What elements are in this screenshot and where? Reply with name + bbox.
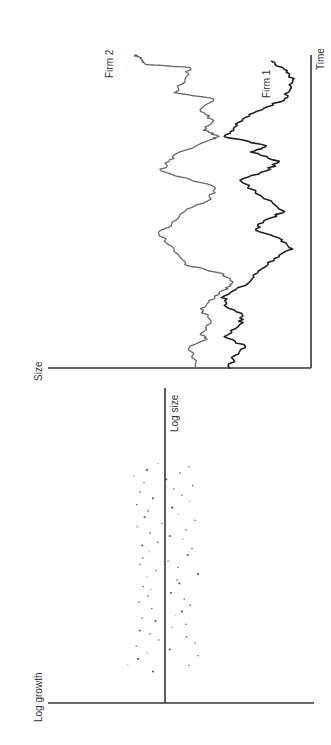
- firm-1-line: [221, 61, 294, 368]
- size-axis-label: Size: [33, 361, 44, 381]
- scatter-point: [188, 664, 190, 666]
- time-series-panel: Time Size Firm 2 Firm 1: [33, 48, 326, 381]
- figure: Time Size Firm 2 Firm 1 Log size Log gro…: [0, 0, 331, 745]
- scatter-point: [144, 516, 146, 518]
- scatter-point: [188, 466, 190, 468]
- scatter-point: [141, 617, 143, 619]
- scatter-point: [146, 576, 148, 578]
- scatter-point: [170, 592, 172, 594]
- scatter-point: [143, 586, 145, 588]
- scatter-point: [185, 624, 187, 626]
- time-axis-label: Time: [315, 48, 326, 70]
- scatter-point: [187, 554, 189, 556]
- scatter-point: [141, 544, 143, 546]
- scatter-point: [139, 629, 141, 631]
- scatter-point: [150, 589, 152, 591]
- scatter-point: [183, 598, 185, 600]
- scatter-point: [179, 472, 181, 474]
- scatter-point: [138, 601, 140, 603]
- scatter-point: [197, 655, 199, 657]
- scatter-point: [127, 664, 129, 666]
- scatter-point: [192, 485, 194, 487]
- scatter-point: [191, 548, 193, 550]
- scatter-point: [157, 542, 159, 544]
- scatter-point: [154, 620, 156, 622]
- scatter-point: [186, 636, 188, 638]
- scatter-point: [189, 501, 191, 503]
- scatter-point: [149, 532, 151, 534]
- firm-1-label: Firm 1: [261, 69, 272, 98]
- scatter-point: [197, 573, 199, 575]
- scatter-point: [137, 658, 139, 660]
- scatter-point: [169, 648, 171, 650]
- scatter-point: [173, 488, 175, 490]
- scatter-point: [149, 633, 151, 635]
- scatter-point: [147, 510, 149, 512]
- scatter-point: [171, 627, 173, 629]
- scatter-point: [152, 670, 154, 672]
- firm-2-label: Firm 2: [104, 49, 115, 78]
- log-growth-axis-label: Log growth: [33, 673, 44, 722]
- scatter-point: [171, 507, 173, 509]
- scatter-point: [165, 478, 167, 480]
- scatter-point: [136, 504, 138, 506]
- scatter-point: [189, 605, 191, 607]
- scatter-point: [139, 563, 141, 565]
- scatter-point: [133, 475, 135, 477]
- scatter-point: [149, 551, 151, 553]
- scatter-point: [178, 582, 180, 584]
- firm-2-line: [134, 55, 233, 368]
- scatter-point: [139, 491, 141, 493]
- scatter-point: [152, 497, 154, 499]
- scatter-point: [136, 526, 138, 528]
- scatter-point: [143, 482, 145, 484]
- scatter-point: [135, 646, 137, 648]
- scatter-points: [127, 463, 199, 673]
- scatter-point: [151, 608, 153, 610]
- log-size-axis-label: Log size: [169, 394, 180, 432]
- scatter-point: [176, 579, 178, 581]
- scatter-point: [167, 561, 169, 563]
- scatter-panel: Log size Log growth: [33, 388, 314, 722]
- scatter-point: [182, 538, 184, 540]
- scatter-point: [158, 639, 160, 641]
- scatter-point: [177, 513, 179, 515]
- scatter-point: [142, 557, 144, 559]
- scatter-point: [146, 469, 148, 471]
- scatter-point: [147, 595, 149, 597]
- scatter-point: [177, 567, 179, 569]
- scatter-point: [169, 535, 171, 537]
- scatter-point: [194, 520, 196, 522]
- scatter-point: [181, 611, 183, 613]
- scatter-point: [175, 614, 177, 616]
- scatter-point: [185, 529, 187, 531]
- scatter-point: [161, 523, 163, 525]
- scatter-point: [181, 494, 183, 496]
- scatter-point: [194, 642, 196, 644]
- scatter-point: [146, 652, 148, 654]
- scatter-point: [155, 570, 157, 572]
- scatter-point: [157, 463, 159, 465]
